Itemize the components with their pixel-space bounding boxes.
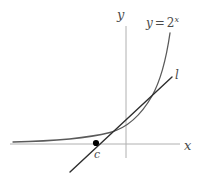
curve-equation-label: y=2x	[146, 17, 179, 29]
point-c-marker	[93, 140, 99, 146]
tangent-line-label: l	[175, 69, 179, 81]
point-c-label: c	[94, 149, 100, 160]
y-axis-label: y	[117, 8, 124, 21]
curve-equation-operator: =	[153, 16, 167, 30]
tangent-line	[70, 77, 172, 172]
exponential-curve	[13, 33, 170, 142]
x-axis-label: x	[184, 139, 191, 152]
curve-equation-lhs: y	[146, 16, 153, 30]
exponential-tangent-figure: y x l c y=2x	[0, 0, 201, 179]
curve-equation-exponent: x	[174, 15, 179, 24]
